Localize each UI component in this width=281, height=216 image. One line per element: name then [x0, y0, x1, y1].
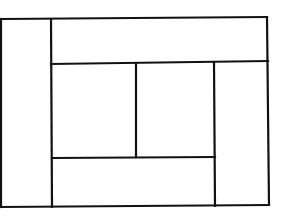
lower-horizontal-line [52, 157, 215, 158]
right-column-divider-line [214, 62, 215, 206]
outer-bottom-line [1, 205, 269, 207]
partition-diagram [0, 0, 281, 216]
diagram-svg [0, 0, 281, 216]
partition-lines [1, 17, 269, 207]
left-column-divider-line [51, 19, 52, 207]
outer-right-line [267, 17, 269, 205]
upper-horizontal-line [51, 61, 268, 64]
outer-top-line [1, 17, 267, 19]
